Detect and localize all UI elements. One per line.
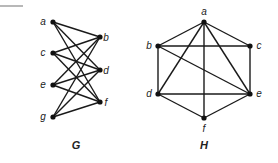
vertex-e (247, 91, 252, 96)
vertex-a (50, 19, 55, 24)
vertex-b (97, 34, 102, 39)
vertex-c (247, 43, 252, 48)
vertex-g (50, 114, 55, 119)
edge-e-f (204, 94, 250, 118)
vertex-label: d (103, 65, 109, 76)
edge-a-e (204, 22, 250, 94)
graph-title: G (72, 139, 81, 151)
graph-h: abcdefH (146, 6, 262, 151)
vertex-f (201, 115, 206, 120)
vertex-label: e (40, 79, 46, 90)
vertex-label: d (146, 88, 152, 99)
vertex-label: a (40, 16, 46, 27)
vertex-label: g (40, 111, 46, 122)
vertex-a (201, 19, 206, 24)
vertex-label: a (201, 6, 207, 17)
vertex-label: e (256, 88, 262, 99)
vertex-label: b (103, 32, 109, 43)
graph-diagram: acegbdfG abcdefH (0, 0, 278, 163)
vertex-d (155, 91, 160, 96)
graph-title: H (200, 139, 209, 151)
vertex-label: f (203, 123, 207, 134)
vertex-c (50, 50, 55, 55)
graph-g: acegbdfG (40, 16, 109, 151)
vertex-b (155, 43, 160, 48)
edge-d-f (158, 94, 204, 118)
vertex-e (50, 82, 55, 87)
vertex-f (97, 99, 102, 104)
vertex-label: c (41, 47, 46, 58)
vertex-label: f (105, 97, 109, 108)
vertex-label: c (257, 40, 262, 51)
vertex-label: b (146, 40, 152, 51)
vertex-d (97, 67, 102, 72)
